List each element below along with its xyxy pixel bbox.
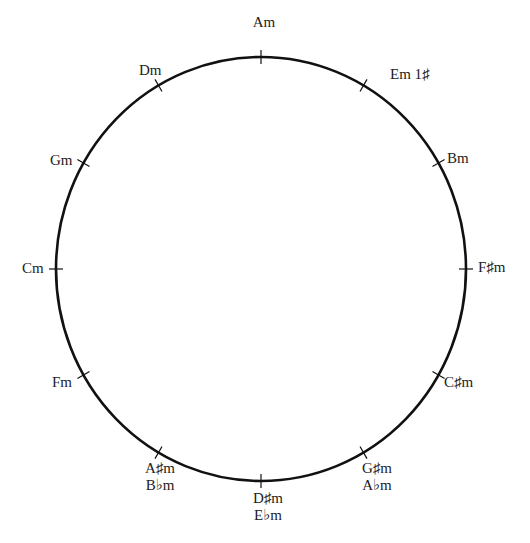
key-name: Em 1♯ [390, 66, 430, 83]
key-name: Am [224, 14, 304, 31]
key-name: Cm [22, 260, 44, 277]
key-name: Fm [52, 374, 72, 391]
key-name: Gm [50, 152, 73, 169]
key-label-am: Am [224, 14, 304, 31]
key-label-gm: Gm [50, 152, 73, 169]
key-name: F♯m [478, 259, 506, 276]
key-name-enharmonic: B♭m [120, 477, 200, 494]
key-label-asharpm-bbm: A♯m B♭m [120, 460, 200, 494]
key-name: A♯m [120, 460, 200, 477]
key-name-enharmonic: E♭m [228, 507, 308, 524]
key-name: Bm [447, 150, 469, 167]
circle-ring [56, 57, 466, 481]
key-label-cm: Cm [22, 260, 44, 277]
key-label-csharpm: C♯m [444, 374, 473, 391]
key-label-dsharpm-ebm: D♯m E♭m [228, 490, 308, 524]
circle-svg [0, 0, 530, 543]
key-name-enharmonic: A♭m [337, 477, 417, 494]
key-name: Dm [139, 62, 162, 79]
key-name: G♯m [337, 460, 417, 477]
key-label-em: Em 1♯ [390, 66, 430, 83]
key-label-gsharpm-abm: G♯m A♭m [337, 460, 417, 494]
key-label-fm: Fm [52, 374, 72, 391]
tick-marks [49, 50, 473, 488]
key-label-bm: Bm [447, 150, 469, 167]
key-label-dm: Dm [139, 62, 162, 79]
key-name: C♯m [444, 374, 473, 391]
key-name: D♯m [228, 490, 308, 507]
key-label-fsharpm: F♯m [478, 259, 506, 276]
